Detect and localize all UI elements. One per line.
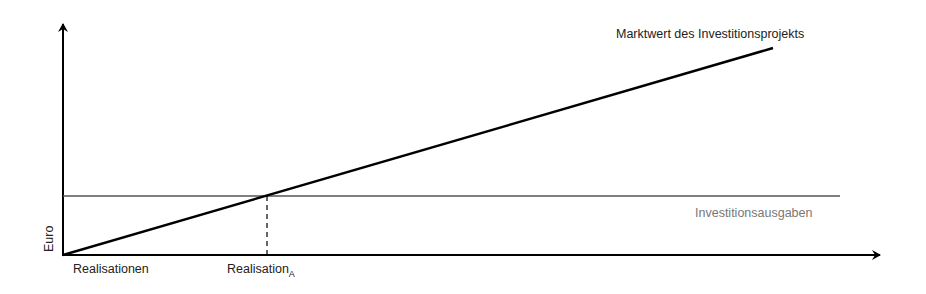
x-label-crossing-main: Realisation (227, 262, 289, 276)
diagram-canvas (0, 0, 926, 294)
market-value-label: Marktwert des Investitionsprojekts (616, 27, 804, 41)
y-axis-label: Euro (42, 226, 56, 252)
x-label-origin: Realisationen (73, 262, 149, 276)
x-label-crossing: RealisationA (227, 262, 295, 279)
investment-label: Investitionsausgaben (695, 206, 812, 220)
x-label-crossing-sub: A (289, 269, 295, 279)
market-value-line (63, 48, 773, 255)
